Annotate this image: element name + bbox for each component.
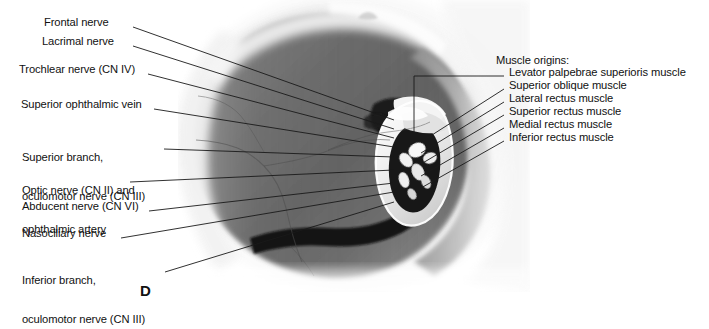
label-frontal-nerve: Frontal nerve [44,16,109,29]
label-inferior-rectus-muscle: Inferior rectus muscle [509,131,614,144]
label-line-1: Optic nerve (CN II) and [22,184,135,197]
label-superior-oblique-muscle: Superior oblique muscle [509,79,627,92]
label-trochlear-nerve: Trochlear nerve (CN IV) [19,63,135,76]
label-superior-ophthalmic-vein: Superior ophthalmic vein [21,98,142,111]
orbit-image [178,0,530,292]
label-lacrimal-nerve: Lacrimal nerve [42,35,114,48]
label-line-1: Inferior branch, [22,274,145,287]
label-line-2: oculomotor nerve (CN III) [22,313,145,326]
label-lateral-rectus-muscle: Lateral rectus muscle [509,92,613,105]
orbit-photograph [178,0,530,292]
label-abducent-nerve: Abducent nerve (CN VI) [22,200,139,213]
label-levator-palpebrae-superioris-muscle: Levator palpebrae superioris muscle [509,66,686,79]
label-medial-rectus-muscle: Medial rectus muscle [509,118,612,131]
label-inferior-branch-oculomotor: Inferior branch, oculomotor nerve (CN II… [22,248,145,329]
panel-letter: D [140,282,151,299]
label-nasociliary-nerve: Nasociliary nerve [22,227,106,240]
label-superior-rectus-muscle: Superior rectus muscle [509,105,621,118]
